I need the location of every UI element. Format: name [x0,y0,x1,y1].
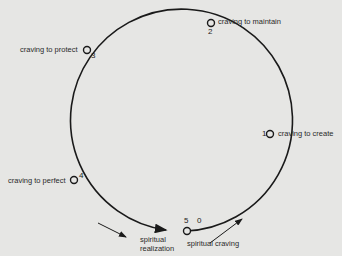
label-craving-to-create: craving to create [278,130,333,138]
label-craving-to-maintain: craving to maintain [218,18,281,26]
node-3 [84,47,91,54]
number-1: 1 [262,130,266,138]
number-3: 3 [91,52,95,60]
number-2: 2 [208,28,212,36]
label-craving-to-protect: craving to protect [20,46,78,54]
label-spiritual-craving: spiritual craving [187,240,239,248]
label-spiritual-realization-line1: spiritual [140,236,166,244]
node-4 [71,177,78,184]
number-5: 5 [184,217,188,225]
direction-arrow-realization [98,223,126,237]
cycle-diagram [0,0,342,256]
cycle-arc [71,9,293,231]
node-2 [208,20,215,27]
label-craving-to-perfect: craving to perfect [8,177,66,185]
number-0: 0 [197,217,201,225]
number-4: 4 [79,172,83,180]
label-spiritual-realization-line2: realization [140,245,174,253]
node-1 [267,131,274,138]
node-0-5 [184,228,191,235]
